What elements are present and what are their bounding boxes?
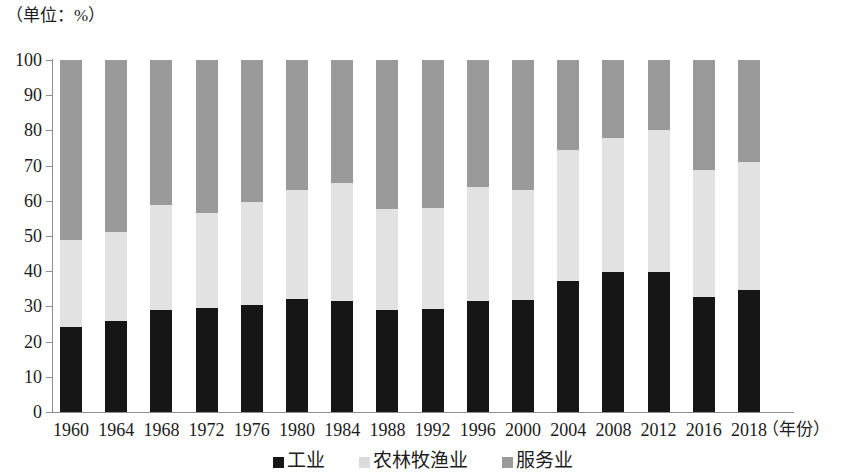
bar-segment-services bbox=[376, 60, 398, 209]
x-axis-tick-label: 1972 bbox=[184, 418, 230, 442]
legend-item-label: 农林牧渔业 bbox=[373, 449, 468, 473]
bar-group bbox=[241, 60, 263, 412]
x-axis-line bbox=[52, 412, 794, 413]
x-axis-tick-label: 1976 bbox=[229, 418, 275, 442]
bar-segment-agriculture bbox=[241, 202, 263, 305]
bar-group bbox=[602, 60, 624, 412]
legend-item-label: 工业 bbox=[287, 449, 325, 473]
bar-group bbox=[648, 60, 670, 412]
y-axis-tick-label: 10 bbox=[24, 366, 42, 388]
bar-segment-industry bbox=[241, 305, 263, 412]
bar-segment-services bbox=[693, 60, 715, 170]
plot-area bbox=[52, 60, 792, 412]
y-axis-tick-label: 30 bbox=[24, 295, 42, 317]
bar-segment-services bbox=[331, 60, 353, 183]
bar-segment-services bbox=[467, 60, 489, 187]
bar-segment-agriculture bbox=[331, 183, 353, 301]
y-axis-tick-label: 50 bbox=[24, 225, 42, 247]
x-axis-unit-label: （年份） bbox=[762, 418, 830, 442]
bar-segment-industry bbox=[286, 299, 308, 412]
bar-segment-services bbox=[557, 60, 579, 150]
legend-swatch-services bbox=[502, 457, 513, 468]
bar-segment-services bbox=[105, 60, 127, 232]
legend-item-agriculture[interactable]: 农林牧渔业 bbox=[359, 449, 468, 473]
x-axis-tick-label: 1980 bbox=[274, 418, 320, 442]
bar-segment-services bbox=[602, 60, 624, 138]
y-axis-unit-caption: （单位：%） bbox=[6, 6, 105, 26]
bar-segment-services bbox=[241, 60, 263, 202]
x-axis-tick-label: 1968 bbox=[138, 418, 184, 442]
bar-segment-industry bbox=[738, 290, 760, 412]
bar-segment-services bbox=[196, 60, 218, 213]
bar-group bbox=[422, 60, 444, 412]
bar-segment-agriculture bbox=[512, 190, 534, 301]
x-axis-tick-label: 2000 bbox=[500, 418, 546, 442]
x-axis-tick-label: 2016 bbox=[681, 418, 727, 442]
bar-group bbox=[557, 60, 579, 412]
bar-segment-industry bbox=[331, 301, 353, 412]
x-axis-tick-label: 2004 bbox=[545, 418, 591, 442]
bar-group bbox=[150, 60, 172, 412]
bar-segment-industry bbox=[422, 309, 444, 412]
bar-group bbox=[738, 60, 760, 412]
legend-item-services[interactable]: 服务业 bbox=[502, 449, 573, 473]
x-axis-tick-label: 1960 bbox=[48, 418, 94, 442]
bar-segment-agriculture bbox=[602, 138, 624, 272]
y-axis-tick-mark bbox=[46, 412, 52, 413]
chart-page: （单位：%） 0102030405060708090100 1960196419… bbox=[0, 0, 846, 475]
bar-segment-agriculture bbox=[196, 213, 218, 308]
bar-group bbox=[693, 60, 715, 412]
bar-segment-agriculture bbox=[648, 130, 670, 272]
bar-segment-industry bbox=[60, 327, 82, 412]
bar-segment-agriculture bbox=[467, 187, 489, 301]
y-axis-tick-label: 80 bbox=[24, 119, 42, 141]
bar-group bbox=[331, 60, 353, 412]
bar-group bbox=[376, 60, 398, 412]
bar-segment-agriculture bbox=[738, 162, 760, 290]
bar-segment-industry bbox=[512, 300, 534, 412]
bar-group bbox=[196, 60, 218, 412]
legend-item-label: 服务业 bbox=[516, 449, 573, 473]
bar-segment-services bbox=[60, 60, 82, 240]
bar-group bbox=[467, 60, 489, 412]
x-axis-tick-label: 1988 bbox=[364, 418, 410, 442]
legend-item-industry[interactable]: 工业 bbox=[273, 449, 325, 473]
y-axis-tick-label: 20 bbox=[24, 331, 42, 353]
bar-group bbox=[286, 60, 308, 412]
bar-segment-agriculture bbox=[557, 150, 579, 281]
y-axis-tick-label: 90 bbox=[24, 84, 42, 106]
bar-segment-industry bbox=[150, 310, 172, 412]
y-axis-tick-label: 0 bbox=[33, 401, 42, 423]
bar-segment-services bbox=[422, 60, 444, 208]
bar-segment-agriculture bbox=[60, 240, 82, 327]
bar-segment-industry bbox=[196, 308, 218, 412]
bar-segment-industry bbox=[648, 272, 670, 412]
chart-legend: 工业农林牧渔业服务业 bbox=[0, 449, 846, 473]
bar-segment-industry bbox=[105, 321, 127, 412]
bar-segment-industry bbox=[693, 297, 715, 412]
bar-segment-services bbox=[150, 60, 172, 205]
x-axis-tick-label: 1996 bbox=[455, 418, 501, 442]
bar-segment-services bbox=[512, 60, 534, 190]
bar-segment-agriculture bbox=[693, 170, 715, 297]
bar-segment-services bbox=[648, 60, 670, 130]
legend-swatch-industry bbox=[273, 457, 284, 468]
bar-segment-agriculture bbox=[150, 205, 172, 310]
bar-segment-agriculture bbox=[422, 208, 444, 309]
bar-segment-agriculture bbox=[105, 232, 127, 321]
bar-group bbox=[512, 60, 534, 412]
bar-segment-industry bbox=[467, 301, 489, 412]
bar-segment-industry bbox=[602, 272, 624, 412]
x-axis-tick-label: 2012 bbox=[636, 418, 682, 442]
bar-group bbox=[105, 60, 127, 412]
bar-segment-industry bbox=[376, 310, 398, 412]
y-axis-tick-label: 60 bbox=[24, 190, 42, 212]
y-axis-tick-label: 40 bbox=[24, 260, 42, 282]
x-axis-tick-label: 1964 bbox=[93, 418, 139, 442]
x-axis-tick-label: 1984 bbox=[319, 418, 365, 442]
x-axis-tick-label: 1992 bbox=[410, 418, 456, 442]
bar-group bbox=[60, 60, 82, 412]
bar-segment-services bbox=[738, 60, 760, 162]
legend-swatch-agriculture bbox=[359, 457, 370, 468]
bar-segment-industry bbox=[557, 281, 579, 412]
